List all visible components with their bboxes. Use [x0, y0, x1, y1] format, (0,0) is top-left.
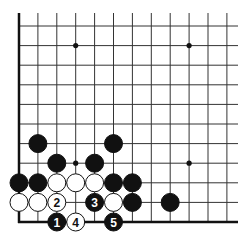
black-stone [105, 174, 123, 192]
black-stone [161, 193, 179, 211]
go-board: 23145 [0, 0, 245, 243]
white-stone [29, 193, 47, 211]
white-stone [105, 193, 123, 211]
move-number: 1 [53, 216, 60, 230]
hoshi-point [187, 43, 192, 48]
black-stone [29, 174, 47, 192]
white-stone [48, 174, 66, 192]
hoshi-point [73, 161, 78, 166]
black-stone [123, 193, 141, 211]
move-number: 5 [110, 216, 117, 230]
white-stone [86, 174, 104, 192]
white-stone [67, 174, 85, 192]
move-number: 4 [72, 216, 79, 230]
go-board-diagram: 23145 [0, 0, 245, 243]
move-number: 2 [53, 196, 60, 210]
hoshi-point [187, 161, 192, 166]
hoshi-point [73, 43, 78, 48]
black-stone [105, 135, 123, 153]
black-stone [86, 154, 104, 172]
move-number: 3 [91, 196, 98, 210]
white-stone [10, 193, 28, 211]
black-stone [48, 154, 66, 172]
black-stone [29, 135, 47, 153]
black-stone [123, 174, 141, 192]
black-stone [10, 174, 28, 192]
